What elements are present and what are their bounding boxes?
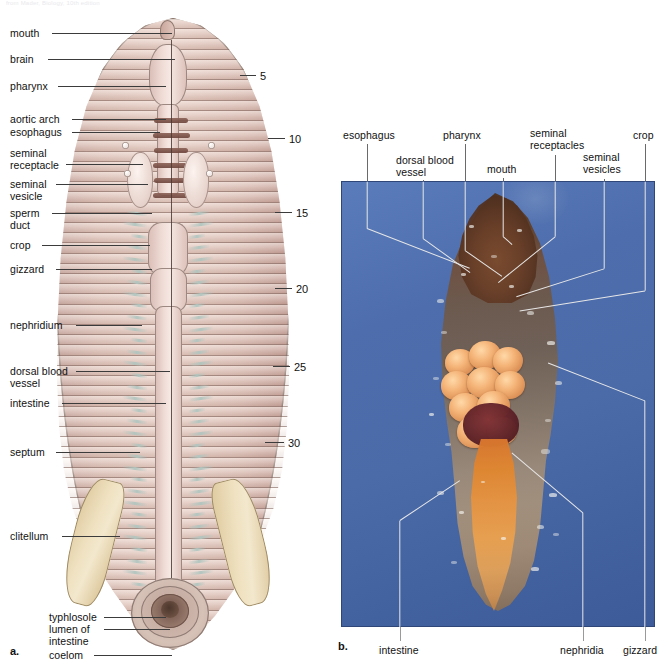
leader-seminal-receptacles	[555, 155, 556, 181]
leader-nephridia	[583, 627, 584, 641]
label-mouth: mouth	[487, 164, 516, 176]
photo-leader-segment	[464, 182, 465, 251]
label-seminal-vesicles: seminal vesicles	[583, 152, 621, 175]
tissue-fleck	[545, 419, 551, 422]
leader-mouth	[503, 178, 504, 181]
segment-number-tick	[275, 288, 292, 289]
tissue-fleck	[445, 443, 451, 446]
segment-number: 15	[296, 207, 308, 219]
leader-seminal-vesicles	[604, 179, 605, 181]
leader-aortic-arch	[72, 119, 166, 120]
label-crop: crop	[633, 130, 654, 142]
leader-dorsal-blood-vessel	[76, 371, 170, 372]
leader-seminal-vesicle	[56, 184, 148, 185]
tissue-fleck	[541, 449, 550, 454]
photo-leader-segment	[422, 182, 423, 239]
tissue-fleck	[509, 285, 514, 288]
photo-leader-segment	[366, 182, 367, 229]
leader-brain	[48, 59, 175, 60]
photo-leader-segment	[548, 362, 646, 401]
seminal-vesicle-right	[183, 152, 209, 208]
tissue-fleck	[481, 481, 485, 483]
label-seminal-receptacle: seminal receptacle	[10, 148, 59, 171]
leader-septum	[56, 452, 140, 453]
segment-number-tick	[275, 212, 292, 213]
segment-number-tick	[265, 442, 284, 443]
segment-number-tick	[240, 75, 256, 76]
tissue-fleck	[461, 273, 466, 276]
label-esophagus: esophagus	[343, 130, 395, 142]
label-esophagus: esophagus	[10, 127, 62, 139]
panel-b-photograph: esophagusdorsal blood vesselpharynxmouth…	[334, 0, 668, 668]
specimen-photograph	[341, 181, 655, 627]
leader-intestine	[62, 403, 166, 404]
label-mouth: mouth	[10, 28, 39, 40]
label-septum: septum	[10, 447, 45, 459]
label-seminal-vesicle: seminal vesicle	[10, 179, 47, 202]
tissue-fleck	[491, 255, 497, 258]
tissue-fleck	[527, 311, 534, 315]
segment-number-tick	[268, 138, 285, 139]
label-coelom: coelom	[49, 650, 83, 662]
prostomium-mouth	[160, 20, 175, 40]
leader-pharynx	[465, 144, 466, 181]
leader-dorsal-blood-vessel	[423, 180, 424, 181]
leader-lumen-of-intestine	[104, 629, 170, 630]
seminal-receptacle-left-2	[124, 170, 131, 177]
tissue-fleck	[429, 413, 434, 416]
tissue-fleck	[517, 229, 522, 232]
tissue-fleck	[537, 525, 544, 529]
leader-coelom	[94, 655, 172, 656]
cross-section-lumen	[161, 601, 179, 618]
label-gizzard: gizzard	[10, 264, 44, 276]
photo-leader-segment	[582, 513, 583, 627]
label-lumen-of-intestine: lumen of intestine	[49, 624, 90, 647]
tissue-fleck	[531, 567, 539, 571]
pharynx-organ	[149, 44, 187, 106]
label-seminal-receptacles: seminal receptacles	[530, 128, 584, 151]
photo-leader-segment	[644, 182, 645, 291]
label-brain: brain	[10, 54, 34, 66]
label-pharynx: pharynx	[10, 81, 48, 93]
segment-number: 10	[289, 133, 301, 145]
label-typhlosole: typhlosole	[49, 612, 97, 624]
leader-crop	[42, 245, 150, 246]
panel-a-drawing: mouthbrainpharynxaortic archesophagussem…	[0, 0, 334, 668]
leader-pharynx	[58, 86, 166, 87]
tissue-fleck	[441, 331, 447, 334]
photo-leader-segment	[644, 401, 645, 627]
segment-number: 30	[288, 437, 300, 449]
label-crop: crop	[10, 240, 31, 252]
label-aortic-arch: aortic arch	[10, 114, 60, 126]
segment-number: 20	[296, 283, 308, 295]
segment-number-tick	[273, 366, 290, 367]
leader-esophagus	[72, 132, 160, 133]
dorsal-blood-vessel-line	[171, 40, 172, 634]
panel-b-letter: b.	[338, 640, 348, 652]
label-nephridium: nephridium	[10, 320, 62, 332]
panel-a-letter: a.	[10, 645, 19, 657]
tissue-fleck	[451, 561, 457, 564]
label-clitellum: clitellum	[10, 531, 48, 543]
label-pharynx: pharynx	[443, 130, 481, 142]
label-dorsal-blood-vessel: dorsal blood vessel	[10, 366, 68, 389]
leader-mouth	[52, 33, 172, 34]
segment-number: 5	[260, 70, 266, 82]
leader-nephridium	[76, 325, 142, 326]
intestine-organ	[155, 306, 182, 606]
tissue-fleck	[437, 299, 444, 303]
tissue-fleck	[459, 511, 464, 514]
leader-sperm-duct	[52, 213, 152, 214]
label-intestine: intestine	[10, 398, 50, 410]
seminal-receptacle-right-2	[206, 170, 213, 177]
tissue-fleck	[553, 533, 559, 536]
label-intestine: intestine	[379, 645, 419, 657]
label-sperm-duct: sperm duct	[10, 208, 39, 231]
leader-seminal-receptacle	[66, 164, 143, 165]
figure-earthworm-anatomy: from Mader, Biology, 10th edition mouthb…	[0, 0, 668, 668]
tissue-fleck	[433, 377, 439, 380]
leader-gizzard	[56, 269, 152, 270]
tissue-fleck	[469, 225, 474, 228]
tissue-fleck	[555, 381, 562, 385]
label-gizzard: gizzard	[623, 645, 657, 657]
